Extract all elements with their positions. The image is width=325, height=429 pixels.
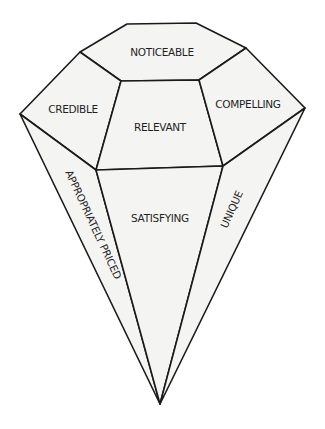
gem-drawing: NOTICEABLE CREDIBLE RELEVANT COMPELLING … <box>0 0 325 429</box>
label-credible: CREDIBLE <box>48 103 98 115</box>
label-noticeable: NOTICEABLE <box>130 46 193 58</box>
label-satisfying: SATISFYING <box>131 212 189 224</box>
label-relevant: RELEVANT <box>134 121 187 133</box>
label-compelling: COMPELLING <box>215 98 281 110</box>
gem-diagram: NOTICEABLE CREDIBLE RELEVANT COMPELLING … <box>0 0 325 429</box>
